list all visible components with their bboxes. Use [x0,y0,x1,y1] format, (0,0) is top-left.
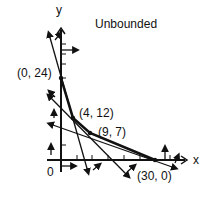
chart-canvas: Unbounded y x 0 (0, 24) (4, 12) (9, 7) (… [0,0,217,197]
y-axis-label: y [56,3,62,17]
arrow-up-left-icon [50,92,55,97]
vertex-9-7 [88,131,92,135]
x-axis-label: x [193,153,199,167]
vertex-label-9-7: (9, 7) [98,125,126,139]
origin-label: 0 [47,165,54,179]
vertex-label-4-12: (4, 12) [79,106,114,120]
arrow-up-right-icon [127,166,134,172]
vertex-label-0-24: (0, 24) [17,66,52,80]
arrow-up-right-icon [55,34,60,40]
arrow-up-right-icon [93,165,99,170]
vertex-4-12 [71,116,75,120]
chart-title: Unbounded [95,17,157,31]
vertex-label-30-0: (30, 0) [137,169,172,183]
vertex-0-24 [59,76,63,80]
vertex-30-0 [153,158,157,162]
